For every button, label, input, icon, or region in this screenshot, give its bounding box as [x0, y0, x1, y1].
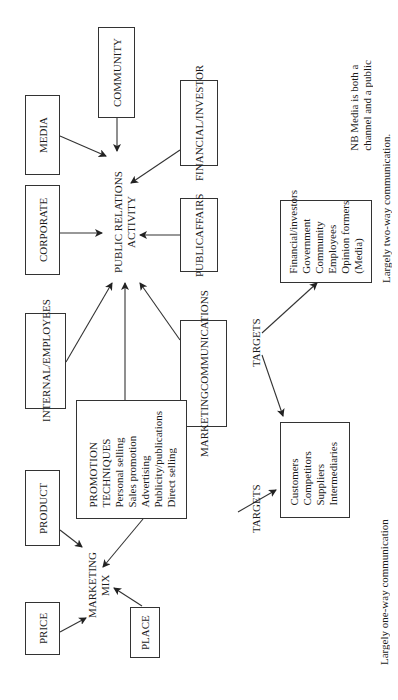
target-item: Financial/investors — [287, 190, 300, 274]
target-item: Intermediaries — [327, 442, 340, 506]
internal-employees-label: INTERNAL/EMPLOYEES — [26, 314, 65, 408]
nb-media-note: NB Media is both a channel and a public — [348, 60, 374, 151]
place-box: PLACE — [130, 607, 160, 658]
nb-line2: channel and a public — [361, 60, 374, 151]
pr-hub-line1: PUBLIC RELATIONS — [112, 171, 124, 273]
corporate-box: CORPORATE — [25, 185, 60, 275]
financial-line2: INVESTOR — [193, 65, 205, 119]
public-affairs-line2: AFFAIRS — [193, 193, 205, 237]
financial-investor-label: FINANCIAL/INVESTOR — [181, 81, 217, 165]
public-affairs-line1: PUBLIC — [193, 238, 205, 277]
internal-employees-box: INTERNAL/EMPLOYEES — [25, 313, 66, 409]
one-way-note: Largely one-way communication — [378, 515, 391, 665]
marcom-line2: COMMUNICATIONS — [198, 290, 210, 391]
pr-activity-hub: PUBLIC RELATIONS ACTIVITY — [112, 162, 138, 282]
target-item: Government — [300, 190, 313, 274]
product-box: PRODUCT — [25, 470, 60, 546]
corporate-label: CORPORATE — [26, 186, 59, 274]
target-item: Customers — [288, 442, 301, 506]
price-label: PRICE — [26, 603, 59, 654]
internal-line2: EMPLOYEES — [40, 300, 52, 365]
target-item: Competitors — [301, 442, 314, 506]
target-item: Suppliers — [314, 442, 327, 506]
promotion-techniques-box: PROMOTION TECHNIQUES Personal selling Sa… — [76, 400, 187, 519]
target-item: (Media) — [352, 190, 365, 274]
marketing-mix-hub: MARKETING MIX — [86, 545, 112, 625]
marketing-targets-list: Customers Competitors Suppliers Intermed… — [288, 442, 340, 506]
public-affairs-label: PUBLICAFFAIRS — [181, 199, 217, 271]
marcom-line1: MARKETING — [198, 391, 210, 457]
two-way-note: Largely two-way communication. — [380, 183, 393, 283]
targets-label-pr: TARGETS — [250, 318, 263, 368]
promotion-item: Sales promotion — [126, 411, 139, 508]
promotion-title1: PROMOTION — [87, 411, 100, 508]
mm-hub-line2: MIX — [99, 574, 111, 595]
promotion-list: PROMOTION TECHNIQUES Personal selling Sa… — [87, 411, 178, 508]
target-item: Opinion formers — [339, 190, 352, 274]
pr-targets-box: Financial/investors Government Community… — [280, 200, 372, 283]
price-box: PRICE — [25, 602, 60, 655]
pr-hub-line2: ACTIVITY — [125, 196, 137, 248]
marketing-communications-label: MARKETINGCOMMUNICATIONS — [181, 321, 226, 426]
promotion-item: Publicity/publications — [152, 411, 165, 508]
target-item: Employees — [326, 190, 339, 274]
mm-hub-line1: MARKETING — [86, 552, 98, 618]
nb-line1: NB Media is both a — [348, 60, 361, 151]
internal-line1: INTERNAL/ — [40, 364, 52, 422]
public-affairs-box: PUBLICAFFAIRS — [180, 198, 218, 272]
financial-line1: FINANCIAL/ — [193, 119, 205, 181]
media-label: MEDIA — [26, 96, 59, 174]
promotion-title2: TECHNIQUES — [100, 411, 113, 508]
financial-investor-box: FINANCIAL/INVESTOR — [180, 80, 218, 166]
product-label: PRODUCT — [26, 471, 59, 545]
target-item: Community — [313, 190, 326, 274]
community-box: COMMUNITY — [98, 27, 135, 118]
promotion-item: Personal selling — [113, 411, 126, 508]
community-label: COMMUNITY — [99, 28, 134, 117]
pr-targets-list: Financial/investors Government Community… — [287, 190, 365, 274]
targets-label-marketing: TARGETS — [250, 484, 263, 534]
promotion-item: Advertising — [139, 411, 152, 508]
place-label: PLACE — [131, 608, 159, 657]
media-box: MEDIA — [25, 95, 60, 175]
promotion-item: Direct selling — [165, 411, 178, 508]
marketing-targets-box: Customers Competitors Suppliers Intermed… — [280, 422, 350, 518]
marketing-communications-box: MARKETINGCOMMUNICATIONS — [180, 320, 227, 427]
